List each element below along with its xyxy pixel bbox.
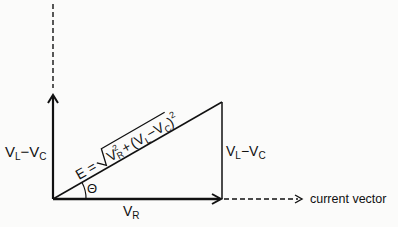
angle-arc (82, 183, 86, 200)
current-vector-label: current vector (310, 192, 386, 206)
svg-text:(VL−VC)2: (VL−VC)2 (126, 109, 182, 153)
resistive-label: VR (123, 203, 140, 221)
hypotenuse-formula: E = V 2 R + (VL−VC)2 (71, 108, 182, 184)
right-reactive-label: VL−VC (226, 143, 266, 161)
angle-theta-label: Θ (87, 181, 97, 196)
left-reactive-label: VL−VC (5, 143, 47, 162)
hypotenuse-E (53, 102, 222, 199)
phasor-diagram: VL−VC VL−VC VR Θ current vector E = V 2 … (0, 0, 398, 227)
svg-text:E =: E = (73, 158, 100, 183)
